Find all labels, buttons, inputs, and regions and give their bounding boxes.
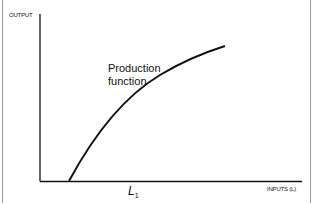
production-function-diagram bbox=[0, 0, 316, 204]
curve-label: Production function bbox=[108, 62, 161, 88]
curve-label-line1: Production bbox=[108, 62, 161, 75]
curve-label-line2: function bbox=[108, 75, 161, 88]
y-axis-label: OUTPUT bbox=[9, 12, 32, 18]
l1-marker-label: L1 bbox=[128, 184, 139, 199]
l1-subscript: 1 bbox=[135, 192, 139, 199]
l1-letter: L bbox=[128, 184, 135, 198]
x-axis-label: INPUTS (L) bbox=[267, 186, 296, 192]
